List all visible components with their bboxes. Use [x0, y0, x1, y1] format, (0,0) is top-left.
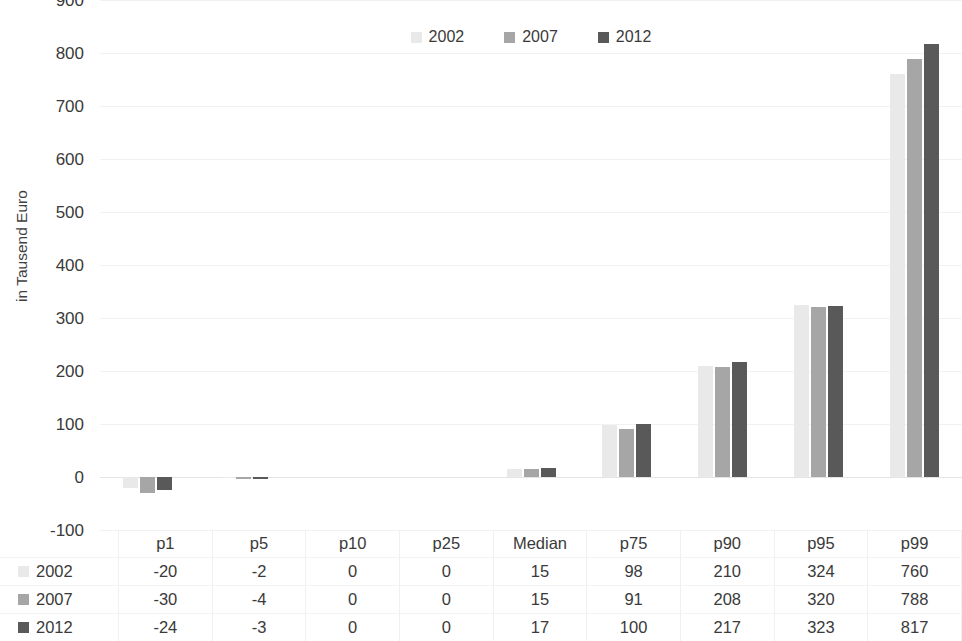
bar-2007-p90: [715, 367, 730, 477]
table-column-header-p75: p75: [587, 530, 681, 558]
table-column-header-p90: p90: [680, 530, 774, 558]
bar-2012-p90: [732, 362, 747, 477]
table-cell: 210: [680, 558, 774, 586]
y-axis-tick-labels: 9008007006005004003002001000-100: [0, 0, 92, 540]
legend-label: 2002: [429, 28, 465, 46]
table-row-header-2002: 2002: [0, 558, 119, 586]
legend-swatch-icon: [598, 32, 609, 43]
y-axis-tick: 100: [56, 416, 84, 433]
table-column-header-p1: p1: [119, 530, 213, 558]
table-cell: -20: [119, 558, 213, 586]
series-label: 2007: [36, 590, 73, 609]
legend-item-2012[interactable]: 2012: [598, 28, 652, 46]
table-cell: 760: [868, 558, 962, 586]
table-cell: 91: [587, 586, 681, 614]
bar-2002-p90: [698, 366, 713, 477]
bar-2012-p5: [253, 477, 268, 479]
bar-2002-p5: [219, 477, 234, 478]
series-label: 2002: [36, 562, 73, 581]
y-axis-tick: 700: [56, 98, 84, 115]
table-cell: -3: [212, 614, 306, 641]
table-cell: 788: [868, 586, 962, 614]
table-column-header-p25: p25: [399, 530, 493, 558]
bar-2002-Median: [507, 469, 522, 477]
bar-2007-p75: [619, 429, 634, 477]
table-cell: 208: [680, 586, 774, 614]
table-cell: 17: [493, 614, 587, 641]
legend-label: 2012: [616, 28, 652, 46]
legend-label: 2007: [522, 28, 558, 46]
table-row-header-2012: 2012: [0, 614, 119, 641]
gridline: [100, 212, 962, 213]
gridline: [100, 106, 962, 107]
table-column-header-p5: p5: [212, 530, 306, 558]
table-cell: 98: [587, 558, 681, 586]
y-axis-tick: 900: [56, 0, 84, 9]
bar-2002-p95: [794, 305, 809, 477]
chart-legend: 200220072012: [100, 28, 962, 46]
bar-2012-p75: [636, 424, 651, 477]
table-body: 2002-20-20015982103247602007-30-40015912…: [0, 558, 962, 641]
table-row: 2012-24-30017100217323817: [0, 614, 962, 641]
legend-swatch-icon: [504, 32, 515, 43]
legend-swatch-icon: [411, 32, 422, 43]
table-cell: -4: [212, 586, 306, 614]
bar-2012-p99: [924, 44, 939, 477]
y-axis-tick: 400: [56, 257, 84, 274]
bar-2007-Median: [524, 469, 539, 477]
bar-2007-p99: [907, 59, 922, 477]
table-cell: -30: [119, 586, 213, 614]
series-swatch-icon: [18, 622, 29, 633]
y-axis-tick: 300: [56, 310, 84, 327]
table-cell: 100: [587, 614, 681, 641]
table-cell: 15: [493, 558, 587, 586]
bar-2012-p95: [828, 306, 843, 477]
bar-2002-p75: [602, 425, 617, 477]
table-cell: 320: [774, 586, 868, 614]
table-column-header-p95: p95: [774, 530, 868, 558]
gridline: [100, 159, 962, 160]
bar-2007-p95: [811, 307, 826, 477]
bar-2007-p5: [236, 477, 251, 479]
table-cell: 324: [774, 558, 868, 586]
bar-2012-Median: [541, 468, 556, 477]
series-label: 2012: [36, 618, 73, 637]
y-axis-tick: 500: [56, 204, 84, 221]
legend-item-2007[interactable]: 2007: [504, 28, 558, 46]
table-cell: 15: [493, 586, 587, 614]
table-cell: -24: [119, 614, 213, 641]
table-row-header-2007: 2007: [0, 586, 119, 614]
table-corner-cell: [0, 530, 119, 558]
table-column-header-p99: p99: [868, 530, 962, 558]
bar-2007-p1: [140, 477, 155, 493]
table-cell: 0: [399, 586, 493, 614]
gridline: [100, 53, 962, 54]
table-cell: -2: [212, 558, 306, 586]
y-axis-tick: 600: [56, 151, 84, 168]
table-cell: 323: [774, 614, 868, 641]
table-cell: 217: [680, 614, 774, 641]
table-column-header-p10: p10: [306, 530, 400, 558]
gridline: [100, 265, 962, 266]
gridline: [100, 0, 962, 1]
legend-item-2002[interactable]: 2002: [411, 28, 465, 46]
bar-2012-p1: [157, 477, 172, 490]
table-column-header-Median: Median: [493, 530, 587, 558]
table-cell: 0: [306, 558, 400, 586]
y-axis-tick: 200: [56, 363, 84, 380]
table-cell: 0: [399, 614, 493, 641]
table-cell: 817: [868, 614, 962, 641]
table-cell: 0: [306, 614, 400, 641]
y-axis-tick: 0: [75, 469, 84, 486]
table-row: 2002-20-2001598210324760: [0, 558, 962, 586]
table-cell: 0: [399, 558, 493, 586]
bar-2002-p1: [123, 477, 138, 488]
table-header-row: p1p5p10p25Medianp75p90p95p99: [0, 530, 962, 558]
y-axis-tick: 800: [56, 45, 84, 62]
bar-2002-p99: [890, 74, 905, 477]
series-swatch-icon: [18, 566, 29, 577]
table-row: 2007-30-4001591208320788: [0, 586, 962, 614]
series-swatch-icon: [18, 594, 29, 605]
data-table: p1p5p10p25Medianp75p90p95p99 2002-20-200…: [0, 530, 962, 641]
